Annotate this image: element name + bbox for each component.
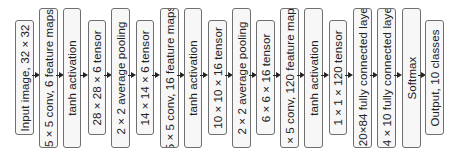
layer-label: 6 × 6 × 16 tensor — [260, 33, 272, 122]
layer-box-14: 1 × 1 × 120 tensor — [329, 20, 347, 135]
layer-box-6: 14 × 14 × 6 tensor — [136, 20, 154, 135]
layer-box-17: Softmax — [402, 8, 421, 148]
layer-box-10: 2 × 2 average pooling — [232, 8, 251, 148]
layer-label: 2 × 2 average pooling — [115, 21, 127, 134]
layer-label: Output, 10 classes — [429, 29, 441, 126]
layer-box-4: 28 × 28 × 6 tensor — [88, 20, 106, 135]
layer-label: 10 × 10 × 16 tensor — [212, 27, 224, 129]
layer-label: 5 × 5 conv, 16 feature maps — [164, 8, 176, 148]
layer-label: 120×84 fully connected layer — [357, 8, 369, 148]
layer-box-13: tanh activation — [304, 8, 323, 148]
layer-label: 14 × 14 × 6 tensor — [139, 30, 151, 125]
layer-label: Input image, 32 × 32 — [19, 24, 31, 131]
layer-label: tanh activation — [308, 40, 320, 116]
layer-box-9: 10 × 10 × 16 tensor — [208, 20, 227, 135]
layer-label: tanh activation — [187, 40, 199, 116]
lenet-diagram: Input image, 32 × 32 5 × 5 conv, 6 featu… — [0, 0, 458, 159]
layer-box-3: tanh activation — [63, 8, 81, 148]
layer-label: 5 × 5 conv, 120 feature maps — [284, 8, 296, 148]
layer-box-1: Input image, 32 × 32 — [15, 20, 34, 135]
layer-box-18: Output, 10 classes — [425, 20, 444, 135]
layer-label: tanh activation — [66, 40, 78, 116]
arrow-head — [83, 72, 88, 78]
layer-box-2: 5 × 5 conv, 6 feature maps — [39, 8, 58, 148]
layer-label: Softmax — [406, 57, 418, 100]
layer-box-7: 5 × 5 conv, 16 feature maps — [160, 8, 179, 148]
layer-box-15: 120×84 fully connected layer — [353, 8, 372, 148]
layer-box-5: 2 × 2 average pooling — [111, 8, 130, 148]
layer-box-11: 6 × 6 × 16 tensor — [256, 20, 275, 135]
layer-label: 84 × 10 fully connected layer — [381, 8, 393, 148]
layer-box-16: 84 × 10 fully connected layer — [377, 8, 396, 148]
layer-box-8: tanh activation — [184, 8, 202, 148]
layer-label: 5 × 5 conv, 6 feature maps — [43, 9, 55, 147]
layer-label: 1 × 1 × 120 tensor — [332, 30, 344, 125]
layer-label: 28 × 28 × 6 tensor — [91, 30, 103, 125]
layer-label: 2 × 2 average pooling — [236, 21, 248, 134]
layer-box-12: 5 × 5 conv, 120 feature maps — [280, 8, 299, 148]
